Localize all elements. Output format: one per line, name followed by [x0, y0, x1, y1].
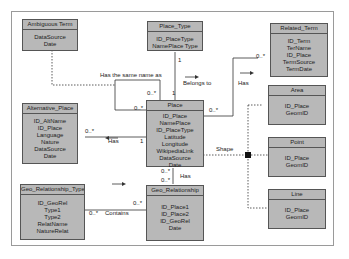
mult-place-georel-b: 0..* [161, 177, 170, 183]
attribute: Date [23, 41, 77, 48]
assoc-label-shape: Shape [216, 146, 233, 152]
attribute: DataSource [23, 146, 77, 153]
mult-same-name-b: 1 [172, 90, 175, 96]
attribute: DataSource [23, 34, 77, 41]
class-title: Place_Type [148, 22, 202, 32]
attribute: NamePlace [147, 120, 203, 127]
class-title: Ambiguous Term [23, 20, 77, 30]
attribute: ID_Place [23, 125, 77, 132]
attribute: Date [147, 225, 203, 232]
attribute: ID_Place [271, 52, 327, 59]
class-title: Point [269, 138, 325, 148]
mult-place-georel-a: 0..* [161, 168, 170, 174]
class-geo-relationship[interactable]: Geo_Relationship ID_Place1 ID_Place2 ID_… [146, 185, 204, 241]
class-title: Alternative_Place [23, 104, 77, 114]
attribute: ID_Place [269, 155, 325, 162]
assoc-label-same-name: Has the same name as [100, 72, 162, 78]
assoc-label-has-related: Has [238, 80, 249, 86]
mult-place-alt: 1 [140, 138, 143, 144]
attribute: NamePlace Type [148, 43, 202, 50]
attribute: GeomID [269, 162, 325, 169]
class-title: Area [269, 86, 325, 96]
attribute: TermDate [271, 66, 327, 73]
attribute: ID_Place2 [147, 211, 203, 218]
assoc-label-has-alt: Has [108, 138, 119, 144]
class-title: Geo_Relationship [147, 186, 203, 196]
mult-georel-type: 0..* [89, 210, 98, 216]
attribute: ID_PlaceType [147, 127, 203, 134]
attribute: RelatName [21, 221, 84, 228]
class-ambiguous-term[interactable]: Ambiguous Term DataSource Date [22, 19, 78, 51]
attribute: Nature [23, 139, 77, 146]
class-area[interactable]: Area ID_Place GeomID [268, 85, 326, 125]
attribute: TermSource [271, 59, 327, 66]
class-related-term[interactable]: Related_Term ID_Term TerName ID_Place Te… [270, 23, 328, 77]
mult-related-term: 0..* [256, 53, 265, 59]
attribute: TerName [271, 45, 327, 52]
attribute: ID_Place1 [147, 204, 203, 211]
class-alternative-place[interactable]: Alternative_Place ID_AltName ID_Place La… [22, 103, 78, 164]
attribute: ID_PlaceType [148, 36, 202, 43]
class-line[interactable]: Line ID_Place GeomID [268, 189, 326, 229]
attribute: Type2 [21, 214, 84, 221]
mult-georel-contains: 0..* [133, 200, 142, 206]
assoc-label-belongs-to: Belongs to [183, 80, 211, 86]
class-title: Related_Term [271, 24, 327, 34]
class-title: Geo_Relationship_Type [21, 185, 84, 195]
attribute: DataSource [147, 155, 203, 162]
mult-same-name-c: 0..* [134, 105, 143, 111]
attribute: NatureRelat [21, 228, 84, 235]
attribute: ID_Place [269, 103, 325, 110]
class-point[interactable]: Point ID_Place GeomID [268, 137, 326, 177]
attribute: ID_AltName [23, 118, 77, 125]
mult-place-type: 1 [178, 57, 181, 63]
attribute: GeomID [269, 214, 325, 221]
attribute: Date [147, 162, 203, 169]
attribute: Date [23, 153, 77, 160]
attribute: Latitude [147, 134, 203, 141]
mult-place-related: 0..* [209, 107, 218, 113]
mult-alt-place: 0..* [85, 128, 94, 134]
attribute: Language [23, 132, 77, 139]
attribute: ID_GeoRel [147, 218, 203, 225]
class-place-type[interactable]: Place_Type ID_PlaceType NamePlace Type [147, 21, 203, 51]
attribute: ID_GeoRel [21, 200, 84, 207]
class-title: Place [147, 101, 203, 111]
attribute: ID_Place [269, 207, 325, 214]
class-geo-relationship-type[interactable]: Geo_Relationship_Type ID_GeoRel Type1 Ty… [20, 184, 85, 240]
attribute: ID_Place [147, 113, 203, 120]
attribute: Type1 [21, 207, 84, 214]
mult-same-name-a: 0..* [147, 90, 156, 96]
attribute: GeomID [269, 110, 325, 117]
attribute: ID_Term [271, 38, 327, 45]
class-title: Line [269, 190, 325, 200]
assoc-label-contains: Contains [105, 210, 129, 216]
assoc-label-has-georel: Has [180, 173, 191, 179]
class-place[interactable]: Place ID_Place NamePlace ID_PlaceType La… [146, 100, 204, 167]
attribute: Longitude [147, 141, 203, 148]
attribute: WikipediaLink [147, 148, 203, 155]
